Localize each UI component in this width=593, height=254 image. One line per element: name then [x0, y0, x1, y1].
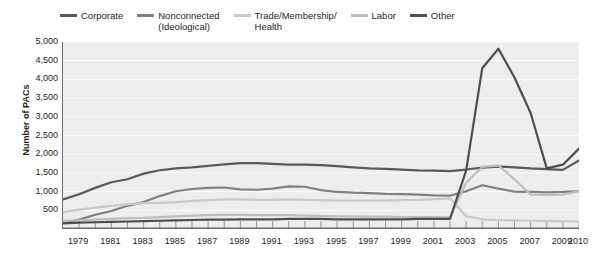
y-tick-label: 2,000 — [24, 148, 58, 158]
x-tick-label: 1995 — [319, 236, 353, 246]
y-tick-label: 1,500 — [24, 167, 58, 177]
legend-item: Labor — [351, 10, 396, 21]
legend-item: Corporate — [60, 10, 123, 21]
x-tick-label: 1983 — [126, 236, 160, 246]
legend-label: Labor — [372, 10, 396, 21]
legend-item: Other — [410, 10, 455, 21]
legend-label: Other — [431, 10, 455, 21]
y-tick-label: 1,000 — [24, 186, 58, 196]
y-axis-tick-labels: 5001,0001,5002,0002,5003,0003,5004,0004,… — [22, 0, 58, 254]
x-tick-label: 2007 — [513, 236, 547, 246]
legend-label: Nonconnected (Ideological) — [158, 10, 219, 32]
legend-item: Nonconnected (Ideological) — [137, 10, 219, 32]
series-line — [63, 161, 579, 200]
chart-legend: CorporateNonconnected (Ideological)Trade… — [60, 10, 580, 38]
legend-swatch-icon — [60, 14, 77, 17]
legend-swatch-icon — [410, 14, 427, 17]
series-lines — [63, 49, 579, 224]
y-tick-label: 4,000 — [24, 73, 58, 83]
chart-svg — [63, 42, 579, 229]
y-tick-label: 3,500 — [24, 92, 58, 102]
x-tick-label: 1981 — [93, 236, 127, 246]
x-tick-label: 1997 — [351, 236, 385, 246]
y-tick-label: 5,000 — [24, 36, 58, 46]
x-tick-label: 1985 — [158, 236, 192, 246]
gridlines — [63, 42, 579, 210]
legend-swatch-icon — [351, 14, 368, 17]
legend-label: Trade/Membership/ Health — [255, 10, 337, 32]
x-tick-label: 1989 — [222, 236, 256, 246]
x-tick-label: 2003 — [448, 236, 482, 246]
x-tick-label: 1987 — [190, 236, 224, 246]
legend-label: Corporate — [81, 10, 123, 21]
x-tick-label: 2001 — [416, 236, 450, 246]
x-tick-label: 2005 — [480, 236, 514, 246]
legend-item: Trade/Membership/ Health — [234, 10, 337, 32]
legend-swatch-icon — [234, 14, 251, 17]
y-tick-label: 4,500 — [24, 55, 58, 65]
legend-swatch-icon — [137, 14, 154, 17]
y-tick-label: 2,500 — [24, 130, 58, 140]
plot-area — [62, 42, 579, 229]
x-tick-label: 1993 — [287, 236, 321, 246]
y-tick-label: 500 — [24, 204, 58, 214]
x-tick-label: 1999 — [384, 236, 418, 246]
y-tick-label: 3,000 — [24, 111, 58, 121]
x-tick-label: 1991 — [255, 236, 289, 246]
x-tick-label: 1979 — [61, 236, 95, 246]
series-line — [63, 49, 579, 224]
x-tick-label: 2010 — [561, 236, 593, 246]
